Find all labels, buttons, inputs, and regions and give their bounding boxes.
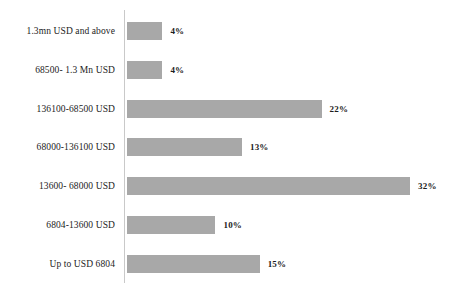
bar-row: 1.3mn USD and above4% xyxy=(0,22,450,40)
bar-row: Up to USD 680415% xyxy=(0,255,450,273)
category-label: 68000-136100 USD xyxy=(0,142,115,153)
bar-value-label: 13% xyxy=(250,142,269,152)
bar-value-label: 10% xyxy=(223,220,242,230)
category-label: Up to USD 6804 xyxy=(0,258,115,269)
bar-track xyxy=(127,255,260,273)
category-label: 1.3mn USD and above xyxy=(0,26,115,37)
bar-track xyxy=(127,22,162,40)
bar-fill[interactable] xyxy=(127,22,162,40)
bar-fill[interactable] xyxy=(127,61,162,79)
bar-fill[interactable] xyxy=(127,138,242,156)
bar-track xyxy=(127,138,242,156)
bar-row: 13600- 68000 USD32% xyxy=(0,177,450,195)
category-label: 136100-68500 USD xyxy=(0,103,115,114)
bar-value-label: 4% xyxy=(170,65,184,75)
bar-row: 68000-136100 USD13% xyxy=(0,138,450,156)
bar-fill[interactable] xyxy=(127,216,215,234)
bar-value-label: 32% xyxy=(418,181,437,191)
bar-value-label: 15% xyxy=(268,259,287,269)
category-label: 68500- 1.3 Mn USD xyxy=(0,64,115,75)
bar-track xyxy=(127,177,410,195)
bar-track xyxy=(127,61,162,79)
bar-row: 136100-68500 USD22% xyxy=(0,100,450,118)
category-label: 6804-13600 USD xyxy=(0,220,115,231)
bar-fill[interactable] xyxy=(127,100,322,118)
bar-fill[interactable] xyxy=(127,255,260,273)
bar-value-label: 4% xyxy=(170,26,184,36)
bar-chart: 1.3mn USD and above4%68500- 1.3 Mn USD4%… xyxy=(0,0,450,295)
bar-row: 68500- 1.3 Mn USD4% xyxy=(0,61,450,79)
category-label: 13600- 68000 USD xyxy=(0,181,115,192)
bar-value-label: 22% xyxy=(330,104,349,114)
bar-fill[interactable] xyxy=(127,177,410,195)
bar-row: 6804-13600 USD10% xyxy=(0,216,450,234)
bar-rows-container: 1.3mn USD and above4%68500- 1.3 Mn USD4%… xyxy=(0,0,450,295)
bar-track xyxy=(127,216,215,234)
bar-track xyxy=(127,100,322,118)
